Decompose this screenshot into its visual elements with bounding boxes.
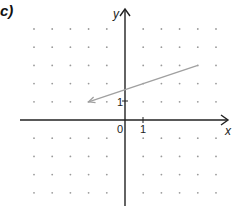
grid-dot (161, 46, 163, 48)
grid-dot (51, 101, 53, 103)
grid-dot (51, 137, 53, 139)
grid-dot (33, 137, 35, 139)
grid-dot (88, 192, 90, 194)
grid-dot (161, 28, 163, 30)
grid-dot (106, 192, 108, 194)
grid-dot (142, 65, 144, 67)
grid-dot (197, 101, 199, 103)
grid-dot (215, 174, 217, 176)
grid-dot (70, 46, 72, 48)
grid-dot (51, 156, 53, 158)
grid-dot (179, 65, 181, 67)
grid-dot (106, 65, 108, 67)
grid-dot (33, 156, 35, 158)
grid-dot (142, 156, 144, 158)
grid-dot (88, 46, 90, 48)
grid-dot (88, 65, 90, 67)
grid-dot (161, 65, 163, 67)
grid-dot (161, 83, 163, 85)
grid-dot (215, 83, 217, 85)
grid-dot (161, 192, 163, 194)
grid-dot (106, 83, 108, 85)
grid-dot (215, 101, 217, 103)
grid-dot (88, 83, 90, 85)
grid-dot (179, 101, 181, 103)
grid-dot (106, 174, 108, 176)
grid-dot (179, 46, 181, 48)
grid-dot (88, 137, 90, 139)
grid-dot (161, 174, 163, 176)
grid-dot (70, 192, 72, 194)
grid-dot (51, 46, 53, 48)
grid-dot (51, 28, 53, 30)
grid-dot (33, 46, 35, 48)
grid-dot (106, 156, 108, 158)
grid-dot (179, 174, 181, 176)
grid-dot (215, 192, 217, 194)
grid-dot (197, 46, 199, 48)
grid-dot (51, 65, 53, 67)
grid-dot (142, 46, 144, 48)
grid-dot (142, 101, 144, 103)
grid-dot (33, 174, 35, 176)
grid-dot (179, 192, 181, 194)
grid-dot (161, 156, 163, 158)
grid-dot (33, 65, 35, 67)
grid-dot (51, 174, 53, 176)
y-unit-label: 1 (117, 96, 123, 108)
grid-dot (179, 83, 181, 85)
grid-dot (70, 28, 72, 30)
x-axis-label: x (224, 124, 232, 138)
grid-dot (33, 83, 35, 85)
grid-dot (51, 192, 53, 194)
grid-dot (179, 28, 181, 30)
grid-dot (215, 137, 217, 139)
coordinate-grid: x y 0 1 1 (0, 0, 233, 207)
grid-dot (142, 174, 144, 176)
grid-dot (33, 192, 35, 194)
grid-dot (33, 101, 35, 103)
x-unit-label: 1 (140, 123, 146, 135)
grid-dot (179, 156, 181, 158)
grid-dot (106, 28, 108, 30)
grid-dot (197, 83, 199, 85)
grid-dot (70, 174, 72, 176)
grid-dot (142, 137, 144, 139)
grid-dot (106, 101, 108, 103)
grid-dot (197, 156, 199, 158)
grid-dot (70, 83, 72, 85)
grid-dot (88, 156, 90, 158)
grid-dot (215, 65, 217, 67)
grid-dot (197, 174, 199, 176)
grid-dot (215, 46, 217, 48)
grid-dot (161, 101, 163, 103)
grid-dot (70, 137, 72, 139)
grid-dot (142, 28, 144, 30)
grid-dot (33, 28, 35, 30)
origin-label: 0 (117, 123, 123, 135)
grid-dot (70, 156, 72, 158)
grid-dot (70, 65, 72, 67)
grid-dot (215, 28, 217, 30)
grid-dot (88, 28, 90, 30)
grid-dot (197, 192, 199, 194)
grid-dot (179, 137, 181, 139)
grid-dot (197, 28, 199, 30)
vector-arrow (89, 65, 198, 102)
grid-dot (215, 156, 217, 158)
grid-dot (70, 101, 72, 103)
grid-dot (88, 174, 90, 176)
grid-dot (106, 137, 108, 139)
grid-dot (161, 137, 163, 139)
grid-dot (197, 137, 199, 139)
y-axis-label: y (112, 7, 120, 21)
grid-dot (106, 46, 108, 48)
grid-dot (142, 192, 144, 194)
grid-dot (51, 83, 53, 85)
